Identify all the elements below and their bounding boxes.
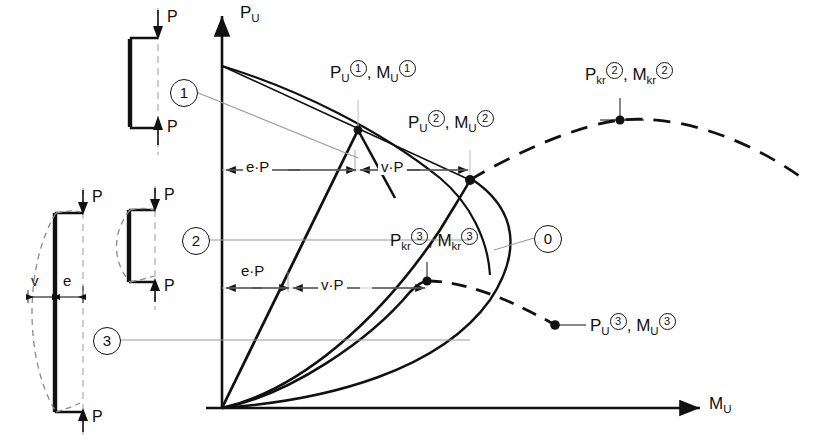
point-marker-pkr2 bbox=[600, 98, 644, 125]
point-label-pkr3-mkr3: Pkr3, Mkr3 bbox=[390, 228, 478, 253]
dimension-label-ep-lower: e·P bbox=[238, 262, 267, 279]
callout-circle-1[interactable]: 1 bbox=[170, 79, 198, 107]
point-marker-pu1 bbox=[354, 100, 363, 134]
callout-leader-0 bbox=[494, 238, 534, 250]
callout-circle-0[interactable]: 0 bbox=[534, 225, 562, 253]
dimension-label-v: v bbox=[31, 272, 39, 289]
callout-leader-1 bbox=[196, 92, 358, 158]
force-label-p-case1-bottom: P bbox=[167, 118, 178, 136]
figure-canvas: PU MU PU1, MU1 PU2, MU2 Pkr2, Mkr2 Pkr3,… bbox=[0, 0, 821, 441]
dimension-label-vp-upper: v·P bbox=[378, 158, 407, 175]
callout-circle-3[interactable]: 3 bbox=[93, 327, 121, 355]
point-label-pkr2-mkr2: Pkr2, Mkr2 bbox=[585, 62, 673, 87]
point-marker-pkr3 bbox=[422, 262, 431, 286]
axis-label-pu: PU bbox=[240, 4, 260, 25]
dimension-label-ep-upper: e·P bbox=[243, 158, 272, 175]
axis-label-mu: MU bbox=[709, 395, 731, 416]
dimension-label-e: e bbox=[63, 272, 71, 289]
point-label-pu3-mu3: PU3, MU3 bbox=[590, 313, 676, 338]
force-label-p-case3-bottom: P bbox=[92, 408, 103, 426]
point-label-pu1-mu1: PU1, MU1 bbox=[330, 60, 416, 85]
point-marker-pu3 bbox=[550, 320, 586, 330]
dimension-label-vp-lower: v·P bbox=[318, 276, 347, 293]
force-label-p-case2-bottom: P bbox=[164, 277, 175, 295]
sketch-case-2 bbox=[117, 186, 161, 310]
callout-circle-2[interactable]: 2 bbox=[182, 227, 210, 255]
point-label-pu2-mu2: PU2, MU2 bbox=[408, 110, 494, 135]
force-label-p-case2-top: P bbox=[164, 186, 175, 204]
sketch-case-3 bbox=[26, 188, 88, 440]
sketch-case-1 bbox=[129, 8, 163, 155]
curve-0-interaction-envelope bbox=[222, 150, 510, 408]
force-label-p-case1-top: P bbox=[167, 8, 178, 26]
force-label-p-case3-top: P bbox=[92, 188, 103, 206]
curve-2-path bbox=[222, 119, 805, 408]
point-marker-pu2 bbox=[465, 150, 475, 185]
